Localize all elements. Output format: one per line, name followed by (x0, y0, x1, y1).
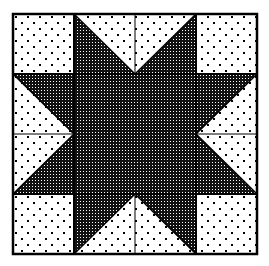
center-square (74, 74, 196, 194)
corner-top-right (196, 14, 257, 74)
corner-bottom-left (13, 194, 74, 254)
quilt-svg (0, 0, 269, 266)
corner-top-left (13, 14, 74, 74)
quilt-diagram: Sawtooth Star quilt block (0, 0, 269, 266)
corner-bottom-right (196, 194, 257, 254)
